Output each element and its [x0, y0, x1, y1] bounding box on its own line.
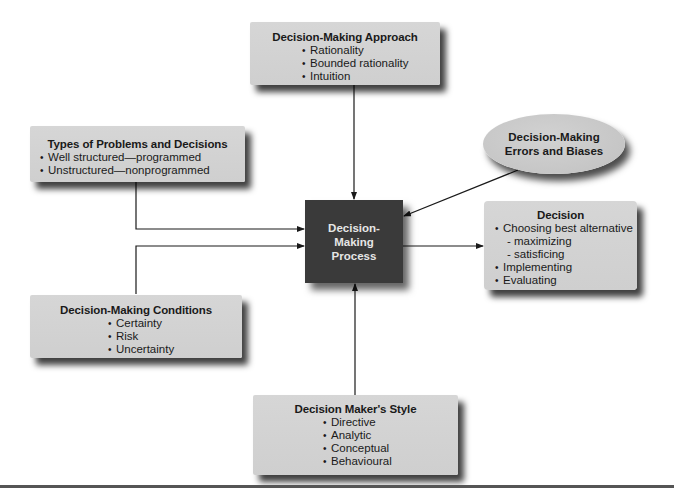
arrow-types-to-process	[136, 182, 304, 229]
decision-makers-style-box: Decision Maker's Style •Directive •Analy…	[253, 395, 458, 475]
bottom-divider	[0, 485, 674, 488]
decision-making-conditions-box: Decision-Making Conditions •Certainty •R…	[30, 295, 242, 358]
list-subitem: - maximizing	[495, 235, 637, 248]
bullet-icon: •	[40, 151, 48, 164]
approach-list: •Rationality •Bounded rationality •Intui…	[302, 44, 440, 83]
approach-title: Decision-Making Approach	[250, 31, 440, 43]
style-list: •Directive •Analytic •Conceptual •Behavi…	[323, 416, 458, 468]
bullet-icon: •	[40, 164, 48, 177]
bullet-icon: •	[495, 274, 503, 287]
bullet-icon: •	[108, 330, 116, 343]
bullet-icon: •	[323, 442, 331, 455]
list-item: •Directive	[323, 416, 458, 429]
types-of-problems-box: Types of Problems and Decisions •Well st…	[30, 126, 245, 182]
style-title: Decision Maker's Style	[253, 403, 458, 415]
bullet-icon: •	[323, 429, 331, 442]
list-item: •Conceptual	[323, 442, 458, 455]
types-title: Types of Problems and Decisions	[30, 138, 245, 150]
bullet-icon: •	[302, 57, 310, 70]
list-item: •Unstructured—nonprogrammed	[40, 164, 245, 177]
list-item: •Rationality	[302, 44, 440, 57]
bullet-icon: •	[108, 317, 116, 330]
list-item: •Implementing	[495, 261, 637, 274]
bullet-icon: •	[323, 455, 331, 468]
list-item: •Uncertainty	[108, 343, 242, 356]
list-subitem: - satisficing	[495, 248, 637, 261]
bullet-icon: •	[323, 416, 331, 429]
list-item: •Well structured—programmed	[40, 151, 245, 164]
list-item: •Bounded rationality	[302, 57, 440, 70]
bullet-icon: •	[108, 343, 116, 356]
decision-box: Decision •Choosing best alternative - ma…	[484, 201, 637, 290]
decision-making-process-box: Decision- Making Process	[305, 200, 403, 283]
errors-and-biases-ellipse: Decision-Making Errors and Biases	[483, 114, 625, 174]
decision-list: •Choosing best alternative - maximizing …	[495, 222, 637, 287]
bullet-icon: •	[302, 70, 310, 83]
list-item: •Certainty	[108, 317, 242, 330]
list-item: •Intuition	[302, 70, 440, 83]
list-item: •Risk	[108, 330, 242, 343]
bullet-icon: •	[302, 44, 310, 57]
conditions-list: •Certainty •Risk •Uncertainty	[108, 317, 242, 356]
decision-making-approach-box: Decision-Making Approach •Rationality •B…	[250, 22, 440, 85]
errors-line-2: Errors and Biases	[483, 144, 625, 158]
list-item: •Choosing best alternative	[495, 222, 637, 235]
bullet-icon: •	[495, 222, 503, 235]
arrow-conditions-to-process	[136, 246, 304, 294]
decision-title: Decision	[484, 209, 637, 221]
conditions-title: Decision-Making Conditions	[30, 304, 242, 316]
list-item: •Analytic	[323, 429, 458, 442]
bullet-icon: •	[495, 261, 503, 274]
process-label: Decision- Making Process	[328, 221, 380, 263]
errors-line-1: Decision-Making	[483, 130, 625, 144]
list-item: •Behavioural	[323, 455, 458, 468]
types-list: •Well structured—programmed •Unstructure…	[40, 151, 245, 177]
list-item: •Evaluating	[495, 274, 637, 287]
